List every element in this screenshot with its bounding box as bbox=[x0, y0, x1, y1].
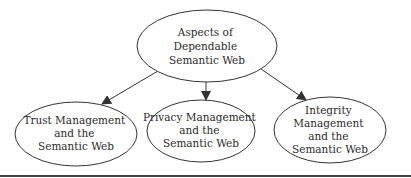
node-label-line: Integrity bbox=[305, 104, 352, 116]
bottom-rule bbox=[0, 175, 411, 177]
svg-text:Aspects of Dependable: Aspects of Dependable Semantic Web bbox=[169, 26, 245, 66]
node-label-line: and the bbox=[179, 124, 219, 136]
edge-aspects-to-trust bbox=[102, 71, 158, 104]
node-label-line: Semantic Web bbox=[169, 54, 245, 66]
node-label-line: and the bbox=[54, 127, 94, 139]
node-trust-management: Trust Management and the Semantic Web bbox=[15, 102, 137, 166]
node-label-line: and the bbox=[308, 130, 348, 142]
node-aspects-of-dependable-semantic-web: Aspects of Dependable Semantic Web bbox=[137, 10, 277, 82]
node-label-line: Semantic Web bbox=[38, 140, 114, 152]
node-label-line: Trust Management bbox=[23, 114, 126, 126]
node-label-line: Semantic Web bbox=[292, 143, 368, 155]
dependable-semantic-web-diagram: Aspects of Dependable Semantic Web Trust… bbox=[0, 0, 411, 178]
node-label-line: Semantic Web bbox=[163, 137, 239, 149]
edge-aspects-to-integrity bbox=[261, 69, 306, 100]
node-label-line: Aspects of bbox=[177, 26, 234, 38]
node-integrity-management: Integrity Management and the Semantic We… bbox=[274, 97, 386, 163]
node-label-line: Privacy Management bbox=[143, 111, 257, 123]
node-label-line: Management bbox=[293, 117, 364, 129]
node-label-line: Dependable bbox=[174, 40, 238, 52]
node-privacy-management: Privacy Management and the Semantic Web bbox=[143, 100, 259, 162]
